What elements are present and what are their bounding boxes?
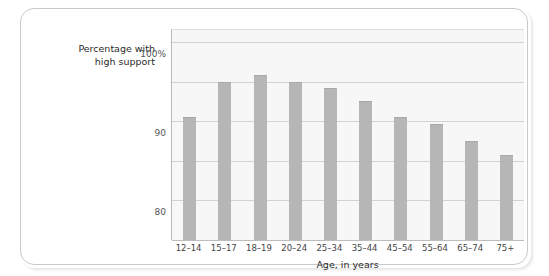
bar-55–64 xyxy=(430,124,443,240)
bar-65–74 xyxy=(465,141,478,240)
bars-layer xyxy=(172,30,524,240)
x-tick-label-15–17: 15–17 xyxy=(211,243,237,253)
x-tick-label-18–19: 18–19 xyxy=(246,243,272,253)
y-tick-label-80: 80 xyxy=(155,207,166,217)
x-tick-label-20–24: 20–24 xyxy=(281,243,307,253)
y-axis-title: Percentage with high support xyxy=(43,42,155,68)
bar-25–34 xyxy=(324,88,337,240)
x-axis-tick-labels: 12–1415–1718–1920–2425–3435–4445–5455–64… xyxy=(171,243,524,257)
y-tick-label-90: 90 xyxy=(155,128,166,138)
plot-area: 5060708090100% xyxy=(171,29,524,240)
x-tick-label-35–44: 35–44 xyxy=(352,243,378,253)
x-tick-label-45–54: 45–54 xyxy=(387,243,413,253)
bar-18–19 xyxy=(254,75,267,240)
bar-15–17 xyxy=(218,82,231,240)
x-tick-label-12–14: 12–14 xyxy=(176,243,202,253)
bar-12–14 xyxy=(183,117,196,240)
x-axis-title: Age, in years xyxy=(171,259,524,270)
x-tick-label-55–64: 55–64 xyxy=(422,243,448,253)
bar-20–24 xyxy=(289,82,302,240)
bar-35–44 xyxy=(359,101,372,240)
y-tick-label-100: 100% xyxy=(140,49,166,59)
bar-45–54 xyxy=(394,117,407,240)
x-tick-label-65–74: 65–74 xyxy=(457,243,483,253)
bar-75+ xyxy=(500,155,513,240)
gridline-50: 50 xyxy=(172,240,524,241)
figure-frame: Percentage with high support 50607080901… xyxy=(20,8,528,265)
x-tick-label-75+: 75+ xyxy=(496,243,514,253)
x-tick-label-25–34: 25–34 xyxy=(316,243,342,253)
